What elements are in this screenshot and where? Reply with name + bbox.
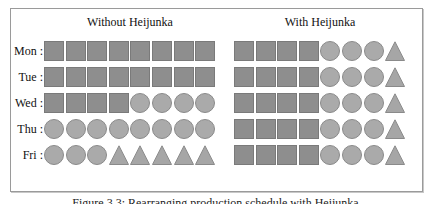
square-icon (44, 93, 64, 113)
square-icon (234, 67, 254, 87)
circle-icon (66, 119, 86, 139)
square-icon (87, 41, 107, 61)
triangle-icon (152, 145, 172, 165)
square-icon (234, 41, 254, 61)
circle-icon (109, 119, 129, 139)
square-icon (234, 93, 254, 113)
square-icon (109, 67, 129, 87)
circle-icon (342, 93, 362, 113)
triangle-icon (195, 145, 215, 165)
square-icon (195, 41, 215, 61)
square-icon (299, 119, 319, 139)
circle-icon (364, 93, 384, 113)
square-icon (299, 93, 319, 113)
circle-icon (364, 67, 384, 87)
circle-icon (364, 119, 384, 139)
square-icon (66, 67, 86, 87)
row-label-wed: Wed : (10, 93, 43, 113)
triangle-icon (385, 145, 405, 165)
square-icon (130, 41, 150, 61)
square-icon (195, 67, 215, 87)
circle-icon (342, 145, 362, 165)
square-icon (152, 41, 172, 61)
square-icon (256, 145, 276, 165)
square-icon (109, 93, 129, 113)
circle-icon (364, 145, 384, 165)
circle-icon (66, 145, 86, 165)
square-icon (44, 41, 64, 61)
square-icon (152, 67, 172, 87)
square-icon (87, 93, 107, 113)
triangle-icon (385, 93, 405, 113)
circle-icon (342, 119, 362, 139)
left-panel-title: Without Heijunka (30, 15, 230, 30)
square-icon (299, 41, 319, 61)
square-icon (256, 119, 276, 139)
triangle-icon (385, 67, 405, 87)
row-label-tue: Tue : (10, 67, 43, 87)
square-icon (109, 41, 129, 61)
right-panel-title: With Heijunka (220, 15, 420, 30)
square-icon (256, 67, 276, 87)
square-icon (277, 67, 297, 87)
square-icon (277, 119, 297, 139)
circle-icon (44, 119, 64, 139)
square-icon (44, 67, 64, 87)
triangle-icon (385, 119, 405, 139)
square-icon (256, 41, 276, 61)
figure-caption: Figure 3.3: Rearranging production sched… (0, 196, 431, 204)
square-icon (130, 67, 150, 87)
circle-icon (174, 119, 194, 139)
circle-icon (342, 67, 362, 87)
triangle-icon (130, 145, 150, 165)
row-label-thu: Thu : (10, 119, 43, 139)
square-icon (256, 93, 276, 113)
square-icon (277, 41, 297, 61)
square-icon (299, 67, 319, 87)
row-label-mon: Mon : (10, 41, 43, 61)
circle-icon (364, 41, 384, 61)
square-icon (87, 67, 107, 87)
square-icon (277, 145, 297, 165)
square-icon (277, 93, 297, 113)
triangle-icon (385, 41, 405, 61)
square-icon (174, 41, 194, 61)
square-icon (66, 41, 86, 61)
square-icon (66, 93, 86, 113)
row-label-fri: Fri : (10, 145, 43, 165)
circle-icon (44, 145, 64, 165)
circle-icon (342, 41, 362, 61)
square-icon (234, 145, 254, 165)
circle-icon (174, 93, 194, 113)
square-icon (234, 119, 254, 139)
triangle-icon (174, 145, 194, 165)
square-icon (174, 67, 194, 87)
circle-icon (152, 93, 172, 113)
circle-icon (152, 119, 172, 139)
square-icon (299, 145, 319, 165)
triangle-icon (109, 145, 129, 165)
